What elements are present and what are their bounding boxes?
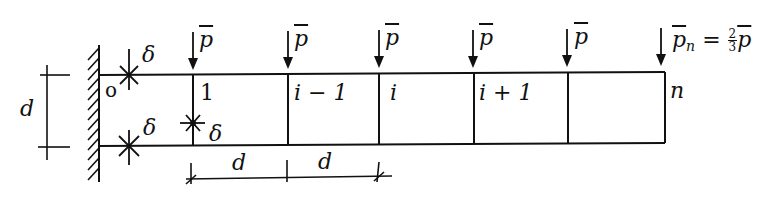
end-load-symbol: p [672,27,686,52]
spacing-dim-label-1: d [232,152,246,174]
spacing-dim-label-2: d [318,151,332,173]
gap-marker-top [120,49,138,90]
node-label-i-1: i − 1 [294,82,347,104]
load-label: p [199,29,213,51]
node-label-i: i [390,82,397,104]
gap-label-vertical: δ [209,123,222,145]
load-label: p [385,27,399,49]
spacing-dimension-line [186,176,392,179]
top-chord [99,72,665,75]
origin-label: o [105,80,117,100]
node-label-i+1: i + 1 [479,82,532,104]
end-load-subscript: n [686,38,695,54]
beam-diagram: o d d d δ δ δ 1 i − 1 i i + 1 n p p p p … [0,0,771,202]
load-label: p [479,27,493,49]
gap-label-bottom: δ [143,117,156,139]
gap-label-top: δ [142,44,155,66]
bottom-chord [99,143,665,146]
fraction: 23 [728,28,738,53]
equals-sign: = [702,27,720,52]
end-load-rhs-symbol: p [737,27,751,52]
height-dim-label: d [20,98,34,120]
load-label: p [574,26,588,48]
node-label-n: n [670,80,684,102]
node-label-1: 1 [200,82,214,104]
fraction-denominator: 3 [728,41,738,53]
load-label: p [294,28,308,50]
end-load-label: pn = 23p [672,28,751,53]
wall-hatching [88,48,99,180]
